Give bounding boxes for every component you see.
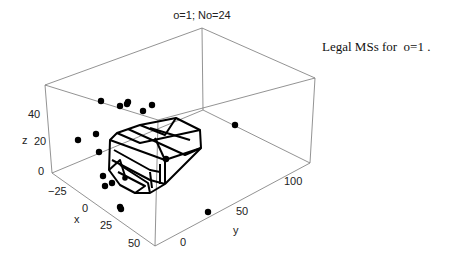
y-axis-label: y [233, 224, 239, 236]
z-tick-20: 20 [34, 135, 46, 147]
z-axis: 40 20 0 z [22, 108, 46, 177]
y-tick-100: 100 [284, 175, 302, 187]
data-point [205, 209, 211, 215]
z-tick-40: 40 [28, 108, 40, 120]
legal-region-wireframe [109, 118, 201, 193]
data-point [98, 98, 104, 104]
x-axis-label: x [74, 213, 80, 225]
z-tick-0: 0 [38, 165, 44, 177]
y-axis: 0 50 100 y [180, 175, 302, 248]
data-point [96, 149, 102, 155]
data-point [118, 206, 124, 212]
y-tick-50: 50 [236, 205, 248, 217]
data-point [102, 183, 108, 189]
y-tick-0: 0 [180, 236, 186, 248]
x-tick--25: −25 [48, 185, 67, 197]
x-axis: −25 0 25 50 x [48, 185, 140, 249]
data-point [75, 137, 81, 143]
data-point [109, 180, 115, 186]
data-point [125, 99, 131, 105]
data-point [117, 103, 123, 109]
data-point [100, 173, 106, 179]
x-tick-25: 25 [100, 219, 112, 231]
x-tick-0: 0 [82, 202, 88, 214]
data-point [149, 102, 155, 108]
3d-scatter-plot: 40 20 0 z −25 0 25 50 x 0 50 100 y [0, 0, 449, 262]
x-tick-50: 50 [128, 237, 140, 249]
data-point [232, 122, 238, 128]
data-point [140, 108, 146, 114]
z-axis-label: z [22, 134, 28, 146]
data-point [93, 131, 99, 137]
